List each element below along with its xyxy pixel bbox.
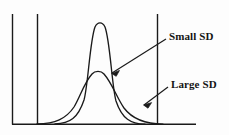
- large-sd-arrowhead: [144, 103, 152, 109]
- normal-distribution-figure: Small SD Large SD: [0, 0, 229, 135]
- small-sd-curve: [55, 23, 145, 124]
- large-sd-label: Large SD: [171, 79, 217, 90]
- distribution-chart-svg: [0, 0, 229, 135]
- large-sd-leader: [144, 87, 169, 108]
- large-sd-curve: [37, 71, 163, 124]
- large-sd-leader-line: [144, 87, 168, 105]
- small-sd-label: Small SD: [169, 31, 214, 42]
